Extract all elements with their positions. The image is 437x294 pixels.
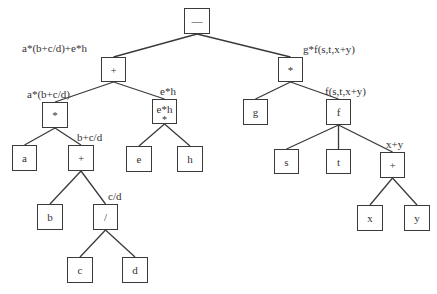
tree-node-div: /	[93, 204, 118, 230]
edge-eh-e	[139, 124, 165, 146]
node-symbol: y	[414, 212, 420, 224]
edge-star2-g	[256, 82, 291, 99]
tree-node-plus3: +	[380, 152, 405, 178]
subexpression-label: c/d	[108, 190, 121, 202]
edge-star1-a	[25, 128, 56, 145]
tree-node-star1: *	[42, 102, 68, 128]
tree-node-c: c	[67, 257, 93, 283]
node-symbol: d	[132, 264, 138, 276]
node-symbol: h	[187, 153, 193, 165]
subexpression-label: a*(b+c/d)+e*h	[22, 42, 87, 54]
edge-plus3-x	[370, 178, 393, 205]
tree-node-star2: *	[278, 57, 303, 82]
edge-f-plus3	[339, 125, 393, 152]
subexpression-label: f(s,t,x+y)	[325, 85, 366, 97]
tree-node-t: t	[326, 149, 351, 174]
edge-eh-h	[165, 124, 191, 146]
node-symbol: t	[337, 156, 340, 168]
edge-plus2-div	[81, 171, 106, 204]
node-symbol: —	[192, 15, 203, 27]
tree-node-s: s	[274, 149, 299, 174]
edge-plus1-eh	[114, 82, 165, 99]
node-symbol: f	[337, 106, 341, 118]
node-symbol: +	[78, 152, 84, 164]
tree-node-f: f	[326, 99, 351, 125]
subexpression-label: b+c/d	[77, 131, 102, 143]
edge-div-d	[106, 230, 136, 257]
tree-node-d: d	[122, 257, 148, 283]
node-symbol: s	[284, 156, 288, 168]
tree-node-b: b	[37, 204, 63, 230]
edge-root-star2	[197, 34, 291, 57]
tree-node-eh: e*h*	[152, 99, 177, 124]
tree-node-y: y	[404, 205, 430, 231]
node-symbol: /	[104, 211, 107, 223]
edge-f-s	[287, 125, 339, 149]
tree-node-h: h	[177, 146, 203, 172]
subexpression-label: x+y	[386, 138, 403, 150]
node-symbol: *	[288, 64, 294, 76]
edge-div-c	[80, 230, 106, 257]
node-symbol: +	[110, 64, 116, 76]
edge-plus3-y	[393, 178, 418, 205]
node-symbol: e*h	[157, 103, 173, 115]
node-symbol: x	[367, 212, 373, 224]
edge-root-plus1	[114, 34, 198, 57]
node-symbol: e	[137, 153, 142, 165]
node-symbol: g	[253, 106, 259, 118]
tree-node-plus2: +	[68, 145, 94, 171]
subexpression-label: e*h	[160, 85, 176, 97]
tree-node-e: e	[126, 146, 152, 172]
tree-node-x: x	[357, 205, 383, 231]
node-symbol: b	[47, 211, 53, 223]
tree-node-g: g	[243, 99, 268, 125]
tree-node-a: a	[12, 145, 37, 171]
expression-tree-diagram: —+a*(b+c/d)+e*h*a*(b+c/d)e*h*e*ha+b+c/de…	[0, 0, 437, 294]
node-symbol: +	[389, 159, 395, 171]
node-symbol: a	[22, 152, 27, 164]
node-sub-symbol: *	[153, 114, 176, 125]
tree-node-root: —	[184, 8, 210, 34]
node-symbol: *	[52, 109, 58, 121]
node-symbol: c	[78, 264, 83, 276]
tree-node-plus1: +	[101, 57, 126, 82]
edge-plus2-b	[50, 171, 81, 204]
subexpression-label: g*f(s,t,x+y)	[303, 43, 355, 55]
subexpression-label: a*(b+c/d)	[27, 88, 70, 100]
